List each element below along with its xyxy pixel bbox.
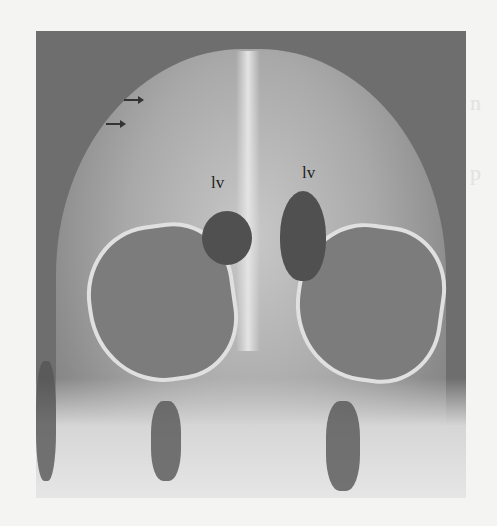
sinus-left	[202, 211, 252, 265]
arrow-icon	[124, 99, 140, 101]
jaw-region	[36, 378, 466, 498]
shadow	[326, 401, 360, 491]
shadow	[151, 401, 181, 481]
shadow	[36, 361, 56, 481]
xray-image: lv lv	[36, 31, 466, 498]
sinus-right	[280, 191, 326, 281]
label-lv-left: lv	[211, 173, 224, 193]
label-lv-right: lv	[302, 163, 315, 183]
arrow-icon	[106, 123, 122, 125]
nasal-septum	[236, 51, 260, 351]
